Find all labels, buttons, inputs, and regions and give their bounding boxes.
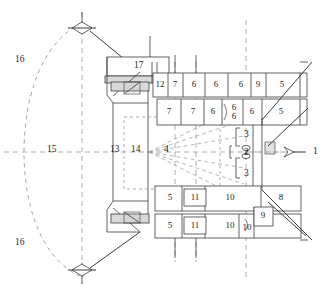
cell-label: 5 — [168, 193, 173, 202]
callout-1: 1 — [313, 147, 318, 157]
top-pivot-hinge — [68, 12, 96, 34]
callout-15: 15 — [47, 145, 57, 155]
cell-label: 6 — [239, 80, 244, 89]
cell-label: 6 — [211, 107, 216, 116]
callout-4: 4 — [164, 145, 169, 155]
cell-label: 6 — [250, 107, 255, 116]
callout-14: 14 — [131, 145, 141, 155]
technical-diagram-figure: 12 7 6 6 6 9 5 7 7 6 6 6 6 5 5 11 10 8 5… — [0, 0, 328, 297]
cell-label: 9 — [256, 80, 261, 89]
cell-label: 5 — [279, 107, 284, 116]
cell-label: 7 — [173, 80, 178, 89]
callout-16-lower: 16 — [15, 238, 25, 248]
cell-label: 5 — [168, 221, 173, 230]
cell-label: 8 — [279, 193, 284, 202]
cell-label: 5 — [280, 80, 285, 89]
cell-label: 9 — [261, 211, 266, 220]
callout-16-upper: 16 — [15, 55, 25, 65]
cell-label: 10 — [226, 193, 235, 202]
cell-label: 10 — [226, 221, 235, 230]
cell-label: 6 — [192, 80, 197, 89]
callout-17: 17 — [134, 61, 144, 71]
hinge-detail-upper — [124, 82, 140, 94]
cell-label: 7 — [191, 107, 196, 116]
callout-2: 2 — [244, 148, 249, 158]
cell-label: 11 — [191, 193, 200, 202]
callout-13: 13 — [110, 145, 120, 155]
hinge-detail-lower — [124, 212, 140, 223]
cell-label: 12 — [156, 80, 165, 89]
cell-label-stacked: 6 6 — [232, 103, 237, 122]
cell-label: 10 — [243, 223, 252, 232]
cell-label: 11 — [191, 221, 200, 230]
bracket-callouts-3 — [230, 128, 240, 178]
cell-label: 6 — [214, 80, 219, 89]
cell-label: 7 — [167, 107, 172, 116]
callout-3-upper: 3 — [244, 130, 249, 140]
callout-3-lower: 3 — [244, 169, 249, 179]
